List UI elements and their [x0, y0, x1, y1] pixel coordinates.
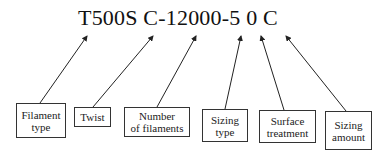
label-line: type	[21, 121, 60, 133]
label-box-twist: Twist	[74, 107, 111, 127]
arrow-sizing-type	[225, 36, 241, 109]
label-line: treatment	[267, 127, 309, 139]
label-box-filament-type: Filament type	[16, 103, 66, 138]
arrow-surface-treatment	[261, 36, 284, 110]
label-box-number-of-filaments: Number of filaments	[124, 107, 190, 137]
label-line: amount	[332, 131, 365, 143]
label-line: Surface	[267, 115, 309, 127]
label-box-sizing-type: Sizing type	[202, 109, 248, 142]
label-line: Sizing	[332, 119, 365, 131]
label-line: of filaments	[131, 122, 184, 134]
arrow-sizing-amount	[286, 36, 346, 111]
label-box-surface-treatment: Surface treatment	[259, 110, 316, 143]
arrow-number-of-filaments	[157, 36, 196, 107]
label-line: Twist	[80, 111, 104, 123]
label-line: Sizing	[211, 114, 239, 126]
label-line: Filament	[21, 109, 60, 121]
arrow-twist	[93, 36, 153, 107]
label-line: type	[211, 126, 239, 138]
arrow-filament-type	[40, 36, 87, 103]
label-line: Number	[131, 110, 184, 122]
label-box-sizing-amount: Sizing amount	[325, 111, 372, 150]
